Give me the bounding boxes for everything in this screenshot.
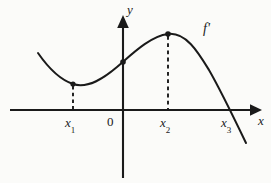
tick-label-x1-subscript: 1	[71, 125, 76, 135]
point-y-intercept	[120, 59, 126, 65]
point-local-maximum	[165, 31, 171, 37]
derivative-graph-figure: y x 0 x1 x2 x3 f'	[0, 0, 271, 183]
tick-label-x3-subscript: 3	[227, 125, 232, 135]
point-local-minimum	[70, 81, 75, 86]
tick-label-x2-subscript: 2	[166, 125, 171, 135]
tick-label-x1: x1	[65, 116, 75, 133]
graph-canvas	[0, 0, 271, 183]
tick-label-x3-base: x	[221, 115, 227, 130]
y-axis-label: y	[127, 3, 133, 16]
tick-label-x1-base: x	[65, 115, 71, 130]
y-axis	[117, 15, 129, 178]
tick-label-x3: x3	[221, 116, 231, 133]
x-axis-label: x	[258, 114, 264, 127]
origin-label: 0	[107, 115, 114, 128]
tick-label-x2-base: x	[160, 115, 166, 130]
curve-label-f-prime: f'	[203, 22, 210, 36]
tick-label-x2: x2	[160, 116, 170, 133]
